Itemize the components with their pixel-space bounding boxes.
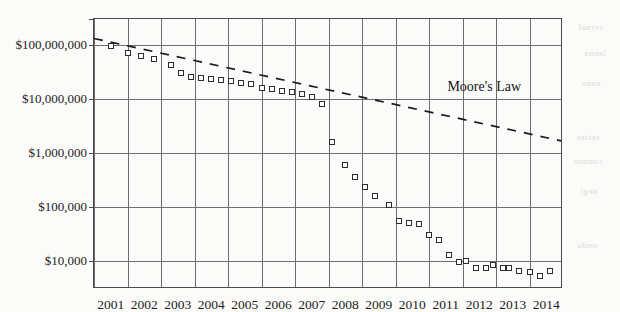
data-point bbox=[248, 81, 254, 87]
x-tick-label-2014: 2014 bbox=[533, 297, 560, 312]
data-point bbox=[537, 273, 543, 279]
y-gridline-1 bbox=[94, 207, 561, 208]
data-point bbox=[208, 76, 214, 82]
data-point bbox=[396, 218, 402, 224]
data-point bbox=[198, 75, 204, 81]
data-point bbox=[473, 265, 479, 271]
bleed-text-5: negi bbox=[580, 186, 598, 196]
data-point bbox=[138, 53, 144, 59]
x-tick-label-2008: 2008 bbox=[332, 297, 359, 312]
data-point bbox=[456, 259, 462, 265]
x-tick-label-2013: 2013 bbox=[499, 297, 526, 312]
data-point bbox=[188, 74, 194, 80]
data-point bbox=[547, 268, 553, 274]
data-point bbox=[269, 86, 275, 92]
data-point bbox=[259, 85, 265, 91]
y-tick-mark-minor-0 bbox=[89, 19, 94, 20]
y-tick-label-1: $100,000 bbox=[38, 199, 94, 215]
y-gridline-2 bbox=[94, 153, 561, 154]
plot-area: $10,000$100,000$1,000,000$10,000,000$100… bbox=[93, 18, 562, 288]
data-point bbox=[352, 174, 358, 180]
x-tick-label-2005: 2005 bbox=[231, 297, 258, 312]
y-tick-mark-0 bbox=[89, 261, 94, 262]
y-tick-label-4: $100,000,000 bbox=[16, 37, 95, 53]
chart-figure: vernallannaannosertescommonegiondu $10,0… bbox=[0, 0, 620, 312]
y-tick-mark-4 bbox=[89, 45, 94, 46]
data-point bbox=[168, 62, 174, 68]
y-tick-mark-1 bbox=[89, 207, 94, 208]
x-tick-label-2002: 2002 bbox=[131, 297, 158, 312]
data-point bbox=[218, 77, 224, 83]
y-tick-mark-3 bbox=[89, 99, 94, 100]
x-tick-label-2009: 2009 bbox=[365, 297, 392, 312]
y-tick-label-0: $10,000 bbox=[45, 253, 94, 269]
data-point bbox=[319, 101, 325, 107]
moores-law-label: Moore's Law bbox=[447, 79, 521, 95]
x-tick-label-2001: 2001 bbox=[97, 297, 124, 312]
data-point bbox=[362, 184, 368, 190]
bleed-text-1: lanna bbox=[584, 48, 606, 58]
bleed-text-3: sertes bbox=[576, 132, 600, 142]
data-point bbox=[329, 139, 335, 145]
data-point bbox=[416, 221, 422, 227]
data-point bbox=[342, 162, 348, 168]
bleed-text-2: anno bbox=[581, 78, 601, 88]
data-point bbox=[289, 89, 295, 95]
data-point bbox=[406, 220, 412, 226]
y-gridline-4 bbox=[94, 45, 561, 46]
bleed-text-0: vernal bbox=[578, 22, 604, 32]
data-point bbox=[108, 43, 114, 49]
data-point bbox=[125, 50, 131, 56]
data-point bbox=[483, 265, 489, 271]
y-gridline-3 bbox=[94, 99, 561, 100]
data-point bbox=[386, 202, 392, 208]
data-point bbox=[490, 262, 496, 268]
data-point bbox=[436, 237, 442, 243]
bleed-text-6: ondu bbox=[577, 240, 597, 250]
data-point bbox=[446, 252, 452, 258]
y-tick-label-3: $10,000,000 bbox=[22, 91, 94, 107]
y-tick-mark-2 bbox=[89, 153, 94, 154]
data-point bbox=[426, 232, 432, 238]
data-point bbox=[372, 193, 378, 199]
x-tick-label-2003: 2003 bbox=[164, 297, 191, 312]
data-point bbox=[178, 70, 184, 76]
data-point bbox=[151, 56, 157, 62]
y-tick-label-2: $1,000,000 bbox=[29, 145, 95, 161]
data-point bbox=[500, 265, 506, 271]
data-point bbox=[527, 269, 533, 275]
data-point bbox=[299, 91, 305, 97]
bleed-text-4: commo bbox=[573, 156, 603, 166]
x-tick-label-2007: 2007 bbox=[298, 297, 325, 312]
data-point bbox=[238, 80, 244, 86]
data-point bbox=[516, 268, 522, 274]
data-point bbox=[309, 94, 315, 100]
x-tick-label-2004: 2004 bbox=[198, 297, 225, 312]
x-tick-label-2012: 2012 bbox=[466, 297, 493, 312]
data-point bbox=[228, 78, 234, 84]
x-tick-label-2011: 2011 bbox=[433, 297, 460, 312]
data-point bbox=[279, 88, 285, 94]
data-point bbox=[506, 265, 512, 271]
x-tick-label-2006: 2006 bbox=[265, 297, 292, 312]
x-tick-label-2010: 2010 bbox=[399, 297, 426, 312]
data-point bbox=[463, 258, 469, 264]
